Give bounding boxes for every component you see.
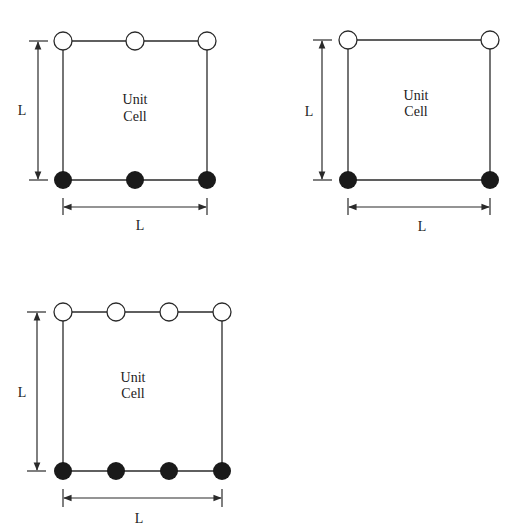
height-label: L bbox=[305, 104, 314, 119]
unit-cell-label-line2: Cell bbox=[121, 386, 144, 401]
filled-node bbox=[160, 462, 178, 480]
unit-cell-label-line1: Unit bbox=[123, 92, 148, 107]
unit-cell-label-line2: Cell bbox=[123, 109, 146, 124]
open-node bbox=[126, 32, 144, 50]
filled-node bbox=[339, 171, 357, 189]
open-node bbox=[160, 303, 178, 321]
unit-cell-diagram-2: L L Unit Cell bbox=[305, 31, 499, 234]
height-label: L bbox=[18, 385, 27, 400]
width-label: L bbox=[135, 511, 144, 526]
width-label: L bbox=[136, 218, 145, 233]
unit-cell-label-line1: Unit bbox=[121, 370, 146, 385]
filled-node bbox=[107, 462, 125, 480]
filled-node bbox=[54, 171, 72, 189]
filled-node bbox=[481, 171, 499, 189]
filled-node bbox=[54, 462, 72, 480]
unit-cell-diagram-1: L L Unit Cell bbox=[18, 32, 216, 233]
unit-cell-label-line1: Unit bbox=[404, 88, 429, 103]
width-label: L bbox=[418, 219, 427, 234]
filled-node bbox=[213, 462, 231, 480]
open-node bbox=[213, 303, 231, 321]
open-node bbox=[107, 303, 125, 321]
open-node bbox=[198, 32, 216, 50]
unit-cell-label-line2: Cell bbox=[404, 104, 427, 119]
filled-node bbox=[198, 171, 216, 189]
unit-cell-diagrams: L L Unit Cell L L Unit Cell bbox=[0, 0, 516, 531]
filled-node bbox=[126, 171, 144, 189]
open-node bbox=[54, 303, 72, 321]
unit-cell-diagram-3: L L Unit Cell bbox=[18, 303, 231, 526]
open-node bbox=[481, 31, 499, 49]
height-label: L bbox=[18, 103, 27, 118]
open-node bbox=[339, 31, 357, 49]
open-node bbox=[54, 32, 72, 50]
